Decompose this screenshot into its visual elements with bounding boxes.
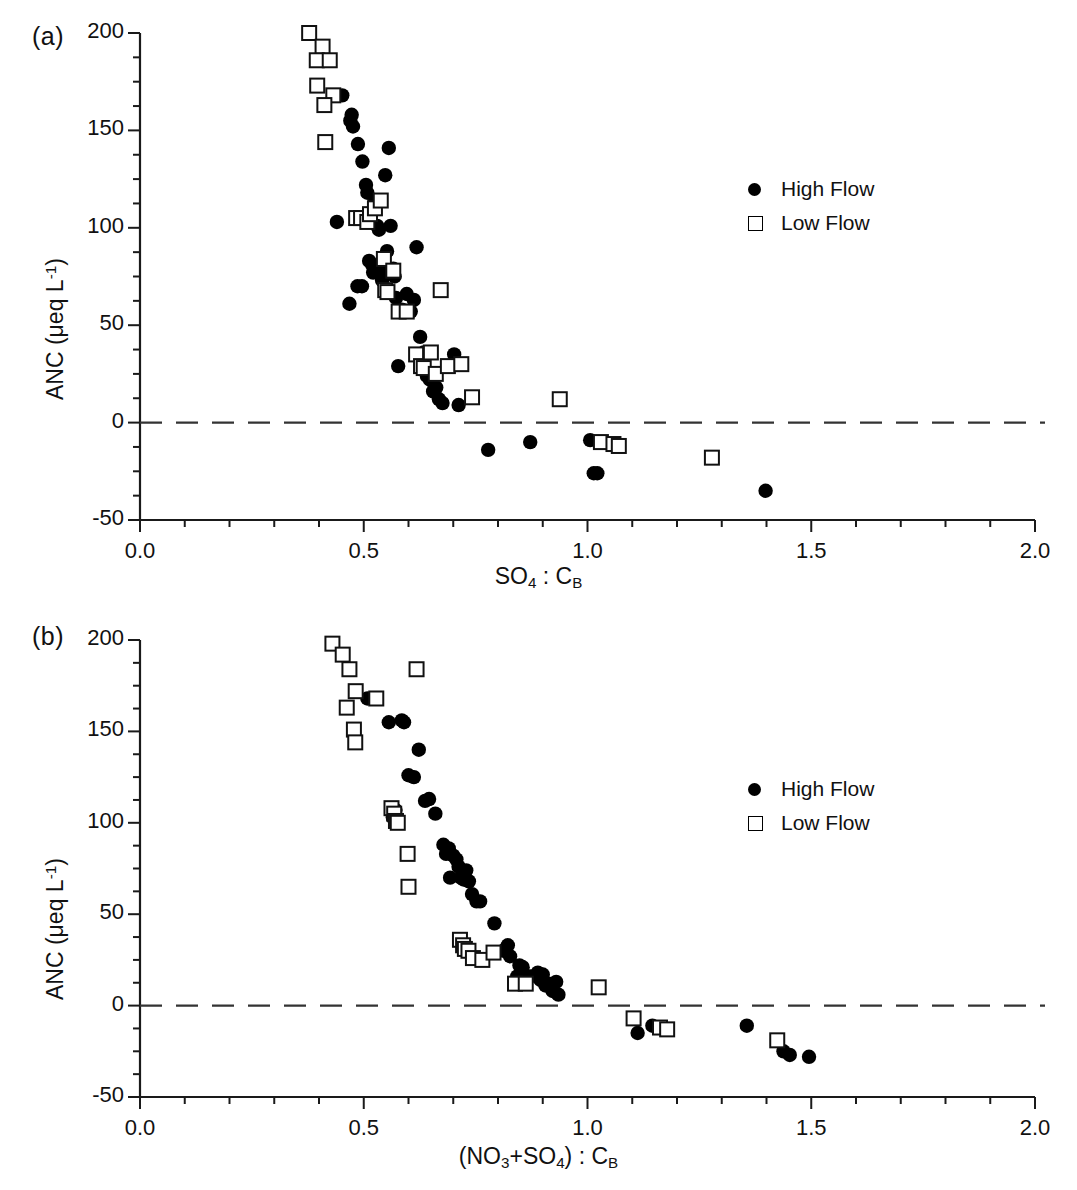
open-square-icon xyxy=(748,816,774,831)
legend-label-high-flow: High Flow xyxy=(774,177,874,201)
panel-b-legend: High Flow Low Flow xyxy=(748,772,874,840)
legend-label-high-flow: High Flow xyxy=(774,777,874,801)
data-point-high-flow xyxy=(413,330,427,344)
data-point-low-flow xyxy=(434,283,448,297)
data-point-high-flow xyxy=(590,466,604,480)
x-tick-label: 2.0 xyxy=(1005,538,1065,564)
legend-row-high-flow: High Flow xyxy=(748,772,874,806)
data-point-low-flow xyxy=(627,1011,641,1025)
legend-label-low-flow: Low Flow xyxy=(774,211,870,235)
x-tick-label: 0.0 xyxy=(110,1115,170,1141)
y-tick-label: 0 xyxy=(32,408,124,434)
series-low-flow xyxy=(302,26,719,465)
filled-circle-icon xyxy=(748,783,774,796)
data-point-high-flow xyxy=(355,154,369,168)
data-point-low-flow xyxy=(340,701,354,715)
data-point-low-flow xyxy=(465,390,479,404)
data-point-high-flow xyxy=(350,279,364,293)
data-point-low-flow xyxy=(553,392,567,406)
data-point-low-flow xyxy=(705,451,719,465)
x-tick-label: 1.5 xyxy=(781,1115,841,1141)
data-point-low-flow xyxy=(348,735,362,749)
data-point-high-flow xyxy=(391,359,405,373)
y-tick-label: 200 xyxy=(32,18,124,44)
data-point-high-flow xyxy=(346,119,360,133)
y-tick-label: -50 xyxy=(32,505,124,531)
legend-row-high-flow: High Flow xyxy=(748,172,874,206)
y-tick-label: 150 xyxy=(32,716,124,742)
legend-label-low-flow: Low Flow xyxy=(774,811,870,835)
data-point-low-flow xyxy=(310,53,324,67)
data-point-high-flow xyxy=(409,240,423,254)
legend-row-low-flow: Low Flow xyxy=(748,806,874,840)
data-point-high-flow xyxy=(378,168,392,182)
data-point-high-flow xyxy=(351,137,365,151)
data-point-high-flow xyxy=(451,398,465,412)
data-point-low-flow xyxy=(402,880,416,894)
x-tick-label: 1.0 xyxy=(558,1115,618,1141)
data-point-low-flow xyxy=(487,946,501,960)
y-tick-label: 0 xyxy=(32,991,124,1017)
data-point-high-flow xyxy=(435,396,449,410)
series-high-flow xyxy=(330,88,773,498)
data-point-high-flow xyxy=(397,715,411,729)
data-point-high-flow xyxy=(330,215,344,229)
data-point-high-flow xyxy=(481,443,495,457)
y-tick-label: 100 xyxy=(32,808,124,834)
y-tick-label: 200 xyxy=(32,625,124,651)
data-point-high-flow xyxy=(462,874,476,888)
data-point-low-flow xyxy=(316,40,330,54)
panel-b-plot xyxy=(0,600,1077,1190)
data-point-low-flow xyxy=(317,98,331,112)
data-point-high-flow xyxy=(342,297,356,311)
series-high-flow xyxy=(360,691,816,1064)
panel-a: (a) ANC (μeq L-1) SO4 : CB High Flow Low… xyxy=(0,0,1077,600)
data-point-high-flow xyxy=(407,770,421,784)
data-point-low-flow xyxy=(400,305,414,319)
x-tick-label: 1.5 xyxy=(781,538,841,564)
data-point-low-flow xyxy=(519,977,533,991)
x-tick-label: 0.5 xyxy=(334,1115,394,1141)
x-tick-label: 0.5 xyxy=(334,538,394,564)
data-point-high-flow xyxy=(783,1048,797,1062)
data-point-high-flow xyxy=(422,792,436,806)
open-square-icon xyxy=(748,216,774,231)
x-tick-label: 0.0 xyxy=(110,538,170,564)
data-point-low-flow xyxy=(660,1022,674,1036)
data-point-high-flow xyxy=(487,916,501,930)
data-point-high-flow xyxy=(473,894,487,908)
y-tick-label: 50 xyxy=(32,899,124,925)
x-tick-label: 1.0 xyxy=(558,538,618,564)
panel-a-plot xyxy=(0,0,1077,600)
data-point-low-flow xyxy=(380,285,394,299)
data-point-high-flow xyxy=(412,742,426,756)
data-point-low-flow xyxy=(770,1033,784,1047)
data-point-low-flow xyxy=(424,345,438,359)
data-point-low-flow xyxy=(323,53,337,67)
filled-circle-icon xyxy=(748,183,774,196)
data-point-low-flow xyxy=(336,648,350,662)
x-tick-label: 2.0 xyxy=(1005,1115,1065,1141)
panel-a-x-axis-title: SO4 : CB xyxy=(0,563,1077,591)
y-tick-label: -50 xyxy=(32,1082,124,1108)
data-point-low-flow xyxy=(410,662,424,676)
data-point-high-flow xyxy=(551,987,565,1001)
panel-a-legend: High Flow Low Flow xyxy=(748,172,874,240)
y-tick-label: 100 xyxy=(32,213,124,239)
data-point-low-flow xyxy=(310,79,324,93)
panel-b: (b) ANC (μeq L-1) (NO3+SO4) : CB High Fl… xyxy=(0,600,1077,1190)
data-point-low-flow xyxy=(386,264,400,278)
data-point-low-flow xyxy=(349,684,363,698)
data-point-high-flow xyxy=(549,975,563,989)
data-point-low-flow xyxy=(318,135,332,149)
data-point-low-flow xyxy=(302,26,316,40)
y-tick-label: 50 xyxy=(32,310,124,336)
figure-container: (a) ANC (μeq L-1) SO4 : CB High Flow Low… xyxy=(0,0,1077,1190)
data-point-low-flow xyxy=(369,691,383,705)
data-point-high-flow xyxy=(383,219,397,233)
data-point-low-flow xyxy=(592,980,606,994)
data-point-low-flow xyxy=(374,194,388,208)
data-point-high-flow xyxy=(630,1026,644,1040)
panel-b-y-axis-title: ANC (μeq L-1) xyxy=(42,858,69,1000)
legend-row-low-flow: Low Flow xyxy=(748,206,874,240)
